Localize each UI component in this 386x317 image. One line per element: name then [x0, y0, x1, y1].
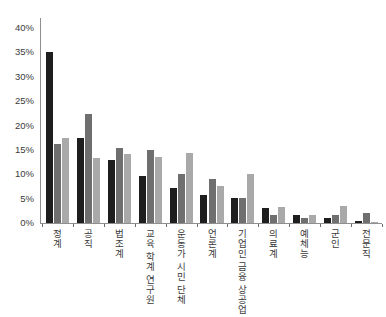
category-label-character: 직	[81, 239, 95, 249]
x-axis-tick-mark	[73, 224, 74, 227]
bar-light-gray-bars-7	[278, 207, 285, 223]
x-axis-tick-mark	[197, 224, 198, 227]
bar-black-bars-2	[108, 160, 115, 223]
bar-black-bars-7	[262, 208, 269, 223]
bar-light-gray-bars-5	[217, 186, 224, 223]
x-axis-category-label: 법조계	[112, 229, 126, 259]
bar-light-gray-bars-2	[124, 154, 131, 223]
bar-dark-gray-bars-7	[270, 215, 277, 223]
y-axis-tick-label: 35%	[0, 46, 34, 58]
bar-light-gray-bars-4	[186, 153, 193, 223]
x-axis-category-label: 기업인금융상공업	[236, 229, 250, 315]
bar-light-gray-bars-8	[309, 215, 316, 223]
x-axis-tick-mark	[166, 224, 167, 227]
bar-black-bars-5	[200, 195, 207, 223]
bar-dark-gray-bars-8	[301, 218, 308, 223]
bar-light-gray-bars-9	[340, 206, 347, 223]
x-axis-line	[40, 223, 382, 224]
bar-black-bars-3	[139, 176, 146, 223]
y-axis-tick-label: 30%	[0, 71, 34, 83]
y-axis-tick-label: 15%	[0, 144, 34, 156]
y-axis-tick-label: 10%	[0, 168, 34, 180]
scanned-chart-page: 0%5%10%15%20%25%30%35%40%정계공직법조계교육학계연구원운…	[0, 0, 386, 317]
bar-dark-gray-bars-10	[363, 213, 370, 223]
x-axis-category-label: 의료계	[267, 229, 281, 259]
bar-light-gray-bars-1	[93, 158, 100, 223]
category-label-character: 계	[205, 249, 219, 259]
x-axis-tick-mark	[135, 224, 136, 227]
x-axis-category-label: 언론계	[205, 229, 219, 259]
y-axis-tick-label: 25%	[0, 95, 34, 107]
bar-dark-gray-bars-1	[85, 114, 92, 223]
category-label-character: 융	[236, 272, 250, 282]
category-label-character: 가	[174, 249, 188, 259]
bar-black-bars-0	[46, 52, 53, 223]
category-label-character: 계	[112, 249, 126, 259]
x-axis-tick-mark	[104, 224, 105, 227]
category-label-character: 업	[236, 305, 250, 315]
x-axis-category-label: 예체능	[298, 229, 312, 259]
category-label-character: 체	[174, 295, 188, 305]
category-label-character: 인	[236, 249, 250, 259]
y-axis-tick-label: 20%	[0, 120, 34, 132]
x-axis-category-label: 군인	[329, 229, 343, 249]
bar-dark-gray-bars-9	[332, 215, 339, 223]
bar-black-bars-1	[77, 138, 84, 223]
category-label-character: 능	[298, 249, 312, 259]
category-label-character: 육	[143, 239, 157, 249]
x-axis-category-label: 교육학계연구원	[143, 229, 157, 305]
x-axis-category-label: 정계	[50, 229, 64, 249]
bar-black-bars-8	[293, 215, 300, 223]
bar-dark-gray-bars-5	[209, 179, 216, 223]
category-label-character: 직	[360, 249, 374, 259]
category-label-character: 계	[267, 249, 281, 259]
bar-dark-gray-bars-4	[178, 174, 185, 223]
x-axis-tick-mark	[382, 224, 383, 227]
grouped-bar-chart: 0%5%10%15%20%25%30%35%40%정계공직법조계교육학계연구원운…	[0, 0, 386, 317]
x-axis-tick-mark	[320, 224, 321, 227]
bar-black-bars-6	[231, 198, 238, 223]
bar-light-gray-bars-6	[247, 174, 254, 223]
bar-light-gray-bars-10	[371, 222, 378, 223]
bar-black-bars-4	[170, 188, 177, 223]
bar-light-gray-bars-3	[155, 157, 162, 223]
category-label-character: 인	[329, 239, 343, 249]
x-axis-tick-mark	[227, 224, 228, 227]
category-label-character: 원	[143, 295, 157, 305]
x-axis-tick-mark	[289, 224, 290, 227]
x-axis-category-label: 공직	[81, 229, 95, 249]
category-label-character: 계	[50, 239, 64, 249]
x-axis-tick-mark	[351, 224, 352, 227]
x-axis-tick-mark	[42, 224, 43, 227]
y-axis-tick-label: 5%	[0, 193, 34, 205]
x-axis-category-label: 전문직	[360, 229, 374, 259]
category-label-character: 민	[174, 272, 188, 282]
bar-dark-gray-bars-0	[54, 144, 61, 223]
bar-dark-gray-bars-2	[116, 148, 123, 223]
bar-light-gray-bars-0	[62, 138, 69, 223]
bar-black-bars-10	[355, 221, 362, 223]
y-axis-tick-label: 40%	[0, 22, 34, 34]
y-axis-line	[40, 18, 41, 224]
bar-dark-gray-bars-6	[239, 198, 246, 223]
category-label-character: 계	[143, 262, 157, 272]
bar-dark-gray-bars-3	[147, 150, 154, 223]
x-axis-category-label: 운동가시민단체	[174, 229, 188, 305]
x-axis-tick-mark	[258, 224, 259, 227]
bar-black-bars-9	[324, 218, 331, 223]
y-axis-tick-label: 0%	[0, 217, 34, 229]
